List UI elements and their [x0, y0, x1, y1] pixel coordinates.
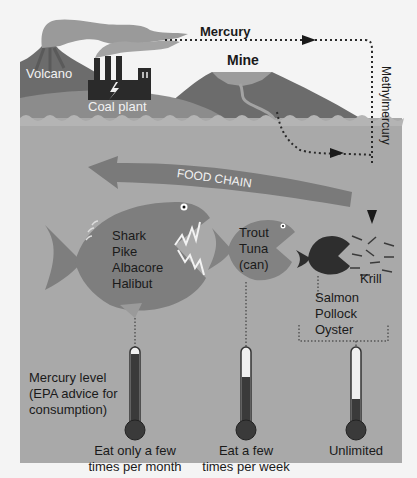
species-pollock: Pollock — [315, 306, 359, 322]
large-fish-species: Shark Pike Albacore Halibut — [112, 228, 163, 292]
species-salmon: Salmon — [315, 290, 359, 306]
advice-small: Unlimited — [306, 443, 406, 458]
species-trout: Trout — [239, 225, 269, 241]
coal-plant-icon — [88, 56, 151, 100]
coal-plant-label: Coal plant — [88, 99, 147, 114]
advice-large: Eat only a few times per month — [85, 443, 185, 475]
mercury-arrowhead-icon — [302, 35, 316, 45]
factory-smoke — [95, 41, 180, 58]
krill-label: Krill — [360, 271, 382, 286]
species-tuna-can: (can) — [239, 257, 269, 273]
species-halibut: Halibut — [112, 276, 163, 292]
small-fish-species: Salmon Pollock Oyster — [315, 290, 359, 338]
advice-medium: Eat a few times per week — [196, 443, 296, 475]
mercury-label: Mercury — [200, 24, 251, 39]
species-oyster: Oyster — [315, 322, 359, 338]
volcano-label: Volcano — [26, 66, 72, 81]
medium-fish-species: Trout Tuna (can) — [239, 225, 269, 273]
species-shark: Shark — [112, 228, 163, 244]
species-pike: Pike — [112, 244, 163, 260]
mercury-level-legend: Mercury level (EPA advice for consumptio… — [29, 370, 118, 418]
mine-label: Mine — [227, 53, 259, 68]
species-tuna: Tuna — [239, 241, 269, 257]
species-albacore: Albacore — [112, 260, 163, 276]
mercury-food-chain-diagram: Volcano Coal plant Mine Mercury Methylme… — [0, 0, 417, 478]
methylmercury-label: Methylmercury — [378, 66, 393, 145]
